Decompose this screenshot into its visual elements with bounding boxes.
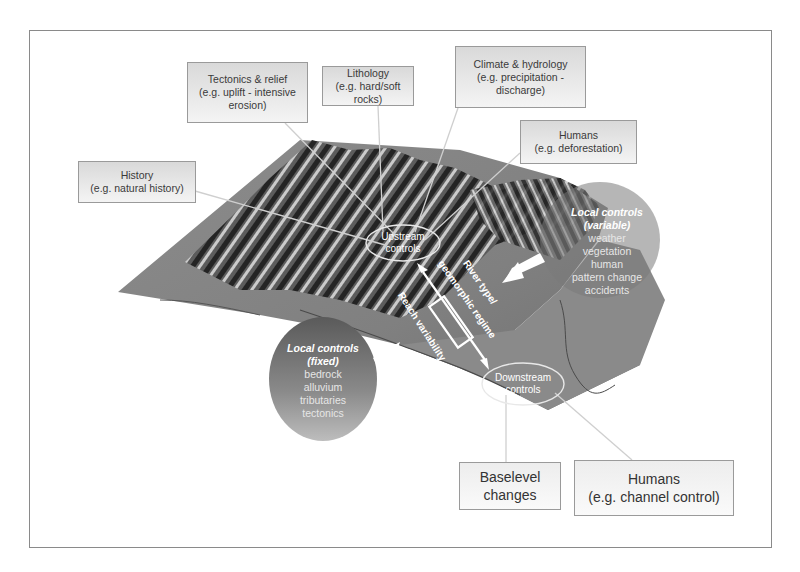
variable-item: human (555, 258, 659, 271)
fixed-subheading: (fixed) (270, 355, 376, 368)
lithology-title: Lithology (323, 67, 413, 80)
tectonics-title: Tectonics & relief (188, 73, 307, 86)
tectonics-example: (e.g. uplift - intensive (188, 86, 307, 99)
variable-item: pattern change (555, 271, 659, 284)
fixed-item: tectonics (270, 407, 376, 420)
tectonics-relief-box: Tectonics & relief (e.g. uplift - intens… (187, 62, 308, 123)
climate-example: (e.g. precipitation - (456, 71, 585, 84)
upstream-controls-label: Upstream controls (368, 231, 438, 255)
lithology-example: (e.g. hard/soft rocks) (323, 80, 413, 106)
downstream-line2: controls (483, 384, 563, 396)
local-controls-variable-text: Local controls (variable) weather vegeta… (555, 206, 659, 297)
climate-example-cont: discharge) (456, 84, 585, 97)
variable-heading: Local controls (555, 206, 659, 219)
climate-hydrology-box: Climate & hydrology (e.g. precipitation … (455, 46, 586, 108)
baselevel-changes-box: Baselevel changes (459, 462, 561, 510)
history-box: History (e.g. natural history) (78, 161, 196, 203)
humans-downstream-title: Humans (575, 470, 733, 488)
fixed-item: alluvium (270, 381, 376, 394)
humans-upstream-title: Humans (521, 129, 636, 142)
history-example: (e.g. natural history) (79, 182, 195, 195)
humans-channel-control-box: Humans (e.g. channel control) (574, 460, 734, 516)
baselevel-title: Baselevel (460, 468, 560, 486)
tectonics-example-cont: erosion) (188, 99, 307, 112)
variable-item: vegetation (555, 245, 659, 258)
humans-upstream-example: (e.g. deforestation) (521, 142, 636, 155)
downstream-line1: Downstream (483, 372, 563, 384)
fixed-heading: Local controls (270, 342, 376, 355)
local-controls-fixed-text: Local controls (fixed) bedrock alluvium … (270, 342, 376, 420)
climate-title: Climate & hydrology (456, 58, 585, 71)
variable-subheading: (variable) (555, 219, 659, 232)
lithology-box: Lithology (e.g. hard/soft rocks) (322, 66, 414, 106)
downstream-controls-label: Downstream controls (483, 372, 563, 396)
fixed-item: bedrock (270, 368, 376, 381)
baselevel-line2: changes (460, 486, 560, 504)
humans-downstream-example: (e.g. channel control) (575, 488, 733, 506)
humans-deforestation-box: Humans (e.g. deforestation) (520, 120, 637, 164)
upstream-line1: Upstream (368, 231, 438, 243)
variable-item: weather (555, 232, 659, 245)
variable-item: accidents (555, 284, 659, 297)
upstream-line2: controls (368, 243, 438, 255)
fixed-item: tributaries (270, 394, 376, 407)
history-title: History (79, 169, 195, 182)
